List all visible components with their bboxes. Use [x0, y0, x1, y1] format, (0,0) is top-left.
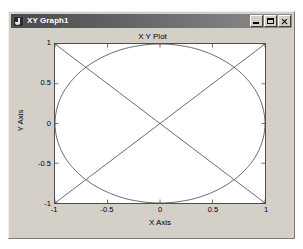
xy-graph-window: XY Graph1 X Y Plot: [8, 11, 295, 239]
window-controls: [250, 15, 291, 27]
minimize-icon: [251, 16, 262, 26]
x-tick-label: 0.5: [200, 206, 226, 214]
window-client-area: X Y Plot -1-0.500.51 -1-0.500.51 X Axis …: [11, 30, 292, 236]
y-tick-label: 1: [17, 39, 51, 47]
close-button[interactable]: [278, 15, 291, 27]
maximize-button[interactable]: [264, 15, 277, 27]
chart-title: X Y Plot: [11, 32, 294, 42]
window-title: XY Graph1: [27, 17, 250, 25]
plot-canvas: [55, 44, 265, 203]
x-tick-label: -1: [41, 206, 67, 214]
plot-area[interactable]: [54, 43, 266, 204]
x-tick-label: 1: [253, 206, 279, 214]
x-tick-label: 0: [147, 206, 173, 214]
maximize-icon: [265, 16, 276, 26]
app-note-icon: [13, 16, 24, 27]
window-title-bar[interactable]: XY Graph1: [11, 14, 292, 28]
x-axis-label: X Axis: [54, 218, 266, 227]
desktop-backdrop: XY Graph1 X Y Plot: [0, 0, 303, 249]
y-tick-label: -0.5: [17, 160, 51, 168]
xy-plot-figure: X Y Plot -1-0.500.51 -1-0.500.51 X Axis …: [11, 30, 294, 238]
minimize-button[interactable]: [250, 15, 263, 27]
x-tick-label: -0.5: [94, 206, 120, 214]
y-tick-label: 0.5: [17, 79, 51, 87]
close-icon: [279, 16, 290, 26]
y-axis-label: Y Axis: [16, 96, 25, 146]
